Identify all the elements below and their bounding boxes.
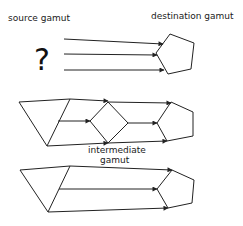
mapping-arrow [64,39,163,44]
row-via-intermediate: intermediate gamut [19,99,193,165]
mapping-arrow [108,102,171,103]
intermediate-gamut-label-line2: gamut [100,155,130,165]
destination-gamut-pentagon [156,34,194,74]
destination-gamut-pentagon [157,170,194,208]
row-direct-unknown-source: source gamut destination gamut ? [8,11,234,77]
gamut-mapping-diagram: source gamut destination gamut ? interme… [0,0,243,226]
source-gamut-label: source gamut [8,13,70,23]
intermediate-gamut-diamond [90,102,128,143]
row-direct-known-source [20,166,194,212]
mapping-arrow [64,54,157,55]
destination-gamut-label: destination gamut [151,11,234,21]
intermediate-gamut-label-line1: intermediate [88,145,146,155]
unknown-source-question-mark: ? [34,42,50,77]
source-gamut-triangle [19,99,70,146]
destination-gamut-pentagon [157,102,193,141]
mapping-arrow [108,141,167,143]
mapping-arrow [70,99,108,101]
mapping-arrow [48,208,168,212]
mapping-arrow [70,166,172,170]
